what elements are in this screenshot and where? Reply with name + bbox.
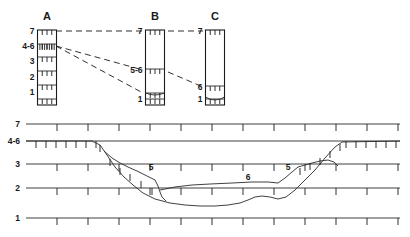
profile-upper-erosion-surface — [26, 141, 400, 206]
bed-label-B-1: 1 — [138, 94, 143, 104]
profile-unit-6-valley-fill — [160, 182, 278, 190]
column-header-C: C — [211, 10, 219, 22]
section-axis-label-3: 3 — [15, 159, 20, 169]
section-annotation-6-1: 6 — [246, 172, 251, 182]
bed-label-C-6: 6 — [198, 82, 203, 92]
section-annotation-5-0: 5 — [149, 162, 154, 172]
section-annotation-5-2: 5 — [286, 162, 291, 172]
bed-label-B-5-6: 5-6 — [130, 65, 143, 75]
column-box-A — [38, 30, 57, 105]
bed-label-A-7: 7 — [30, 26, 35, 36]
column-header-B: B — [151, 10, 159, 22]
column-box-C — [206, 30, 225, 105]
column-header-A: A — [43, 10, 51, 22]
bed-label-A-2: 2 — [30, 72, 35, 82]
section-axis-label-4-6: 4-6 — [8, 136, 21, 146]
bed-label-A-3: 3 — [30, 56, 35, 66]
figure-canvas: A74-6321B75-61C76156574-6321 — [0, 0, 410, 237]
stratigraphic-figure: A74-6321B75-61C76156574-6321 — [0, 0, 410, 237]
section-axis-label-1: 1 — [15, 213, 20, 223]
section-axis-label-2: 2 — [15, 183, 20, 193]
bed-label-A-1: 1 — [30, 87, 35, 97]
correlation-line-6b — [168, 72, 203, 87]
section-axis-label-7: 7 — [15, 119, 20, 129]
bed-label-A-4-6: 4-6 — [22, 41, 35, 51]
bed-label-C-1: 1 — [198, 94, 203, 104]
profile-unit-5-left-bench — [104, 151, 166, 201]
